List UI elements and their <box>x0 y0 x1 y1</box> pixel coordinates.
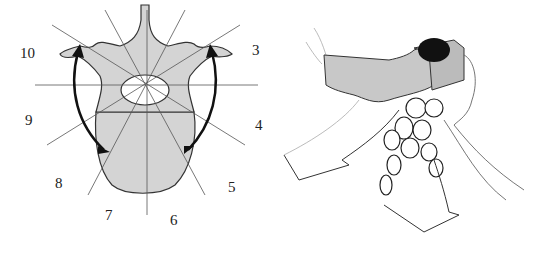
spinal-canal <box>121 75 169 105</box>
vertebra-perspective-sketch <box>274 0 548 254</box>
label-9: 9 <box>25 112 33 128</box>
cobble <box>413 120 431 140</box>
label-6: 6 <box>170 212 178 228</box>
vertebra-axial-diagram: 10 3 9 4 8 5 7 6 <box>0 0 274 254</box>
left-big-arrow <box>284 110 399 180</box>
cobble <box>425 99 443 117</box>
perspective-sketch-svg <box>274 0 548 254</box>
cobble <box>406 98 426 118</box>
right-outline-2 <box>444 120 506 200</box>
dark-canal <box>418 38 450 62</box>
label-8: 8 <box>55 175 63 191</box>
label-10: 10 <box>20 45 35 61</box>
left-arrow-shaft <box>284 100 359 155</box>
label-4: 4 <box>255 117 263 133</box>
label-3: 3 <box>252 42 260 58</box>
axial-diagram-svg: 10 3 9 4 8 5 7 6 <box>0 0 274 254</box>
cobble <box>429 159 443 177</box>
cobble <box>384 130 400 150</box>
label-7: 7 <box>105 207 113 223</box>
lamina <box>324 45 434 102</box>
cobble <box>401 138 419 158</box>
left-outline-2 <box>306 42 322 64</box>
cobbled-column <box>380 98 443 195</box>
cobble <box>380 175 392 195</box>
label-5: 5 <box>228 179 236 195</box>
cobble <box>387 155 401 175</box>
cobble <box>421 143 437 161</box>
